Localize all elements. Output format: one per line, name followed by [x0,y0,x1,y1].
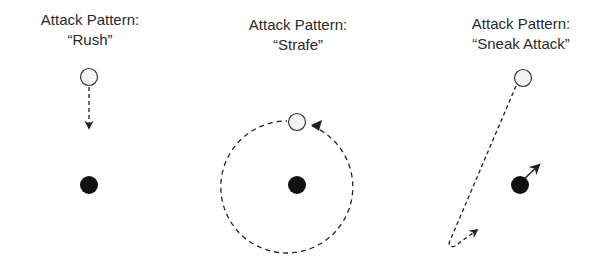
rush-diagram [80,69,98,195]
sneak-attack-diagram [449,70,539,247]
strafe-arrowhead-icon [311,120,322,131]
target-circle-icon [511,176,529,194]
attacker-circle-icon [515,70,532,87]
target-circle-icon [80,176,98,194]
target-circle-icon [288,176,306,194]
strafe-diagram [221,114,353,253]
attacker-circle-icon [289,114,306,131]
attacker-circle-icon [81,69,98,86]
strafe-orbit-path [221,121,353,253]
attack-patterns-diagram [0,0,611,261]
sneak-path-arrow [449,86,516,247]
